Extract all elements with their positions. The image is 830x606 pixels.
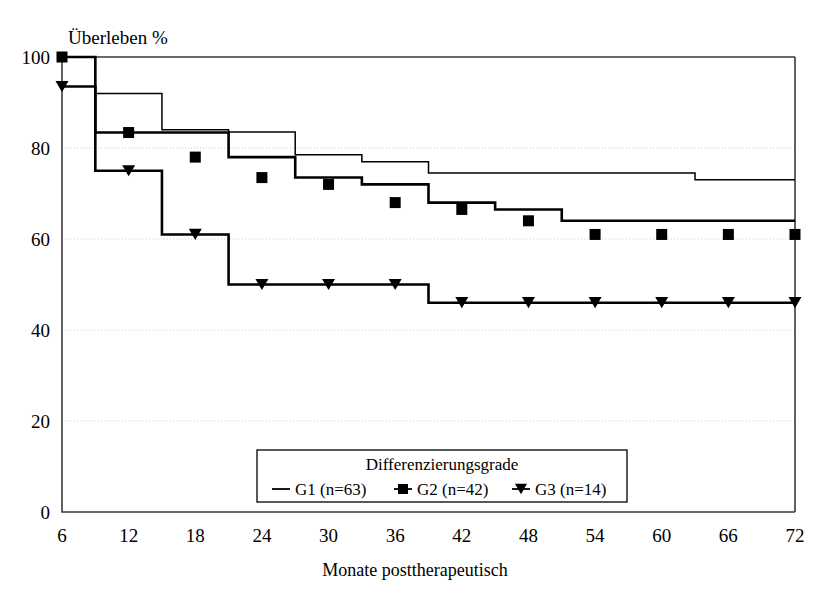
x-tick-label: 60 bbox=[652, 525, 671, 546]
x-tick-label: 42 bbox=[452, 525, 471, 546]
x-tick-label: 12 bbox=[119, 525, 138, 546]
legend-marker-swatch bbox=[398, 484, 408, 494]
x-axis-title: Monate posttherapeutisch bbox=[322, 560, 507, 580]
x-tick-label: 6 bbox=[57, 525, 67, 546]
data-point-marker bbox=[656, 229, 667, 240]
series-line-g2 bbox=[62, 57, 795, 221]
data-point-marker bbox=[256, 172, 267, 183]
legend-item-label: G3 (n=14) bbox=[535, 480, 606, 499]
data-point-marker bbox=[323, 179, 334, 190]
x-axis-tick-labels: 61218243036424854606672 bbox=[57, 525, 804, 546]
data-point-marker bbox=[523, 215, 534, 226]
x-tick-label: 30 bbox=[319, 525, 338, 546]
chart-legend: Differenzierungsgrade G1 (n=63)G2 (n=42)… bbox=[257, 450, 627, 502]
series-line-g1 bbox=[62, 57, 795, 180]
data-point-marker bbox=[190, 152, 201, 163]
x-tick-label: 36 bbox=[386, 525, 405, 546]
legend-item-label: G2 (n=42) bbox=[417, 480, 488, 499]
y-tick-label: 80 bbox=[31, 138, 50, 159]
legend-title: Differenzierungsgrade bbox=[366, 455, 519, 474]
chart-canvas: Überleben % 020406080100 612182430364248… bbox=[0, 0, 830, 606]
y-tick-label: 20 bbox=[31, 411, 50, 432]
data-point-marker bbox=[57, 52, 68, 63]
y-tick-label: 40 bbox=[31, 320, 50, 341]
series-layer bbox=[56, 52, 802, 309]
data-point-marker bbox=[123, 127, 134, 138]
y-tick-label: 60 bbox=[31, 229, 50, 250]
legend-items: G1 (n=63)G2 (n=42)G3 (n=14) bbox=[272, 480, 606, 499]
y-axis-title: Überleben % bbox=[68, 27, 168, 48]
data-point-marker bbox=[590, 229, 601, 240]
y-tick-label: 100 bbox=[22, 47, 51, 68]
data-point-marker bbox=[390, 197, 401, 208]
x-tick-label: 48 bbox=[519, 525, 538, 546]
x-tick-label: 72 bbox=[786, 525, 805, 546]
x-tick-label: 18 bbox=[186, 525, 205, 546]
data-point-marker bbox=[723, 229, 734, 240]
legend-item-label: G1 (n=63) bbox=[295, 480, 366, 499]
kaplan-meier-chart: Überleben % 020406080100 612182430364248… bbox=[0, 0, 830, 606]
data-point-marker bbox=[456, 204, 467, 215]
data-point-marker bbox=[790, 229, 801, 240]
x-tick-label: 66 bbox=[719, 525, 738, 546]
x-tick-label: 54 bbox=[586, 525, 606, 546]
series-g1 bbox=[62, 57, 795, 180]
x-tick-label: 24 bbox=[252, 525, 272, 546]
y-tick-label: 0 bbox=[41, 502, 51, 523]
y-axis-tick-labels: 020406080100 bbox=[22, 47, 51, 523]
series-g2 bbox=[57, 52, 801, 240]
